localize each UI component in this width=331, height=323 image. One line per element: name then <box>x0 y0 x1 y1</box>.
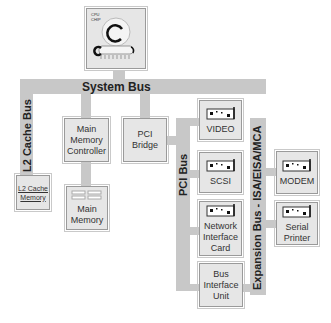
expansion-card-icon <box>206 203 236 217</box>
main-memory-label: Main Memory <box>71 204 104 226</box>
expansion-card-icon <box>282 158 312 172</box>
serial-printer-label: Serial Printer <box>284 222 311 244</box>
l2-cache-bus-label: L2 Cache Bus <box>21 99 33 172</box>
pci-bus <box>176 118 190 291</box>
pci-biu-link <box>176 284 200 291</box>
exp-biu-link <box>243 284 251 292</box>
bus-interface-unit-label: Bus Interface Unit <box>203 269 238 302</box>
pci-bridge-label: PCI Bridge <box>132 129 158 151</box>
memory-module-icon <box>71 190 103 200</box>
video-label: VIDEO <box>206 124 234 135</box>
mm-connector <box>81 162 91 187</box>
main-memory-controller-label: Main Memory Controller <box>67 124 106 157</box>
bus-interface-unit-box: Bus Interface Unit <box>199 263 243 307</box>
pci-top-link <box>176 118 200 126</box>
mmc-connector <box>81 94 91 119</box>
l2-cache-memory-box: L2 Cache Memory <box>16 175 50 210</box>
l2-cache-memory-label: L2 Cache Memory <box>18 184 48 202</box>
computer-bus-architecture-diagram: System Bus L2 Cache Bus PCI Bus Expansio… <box>0 0 331 323</box>
network-interface-card-box: Network Interface Card <box>199 201 242 256</box>
scsi-label: SCSI <box>210 176 231 187</box>
expansion-card-icon <box>282 204 312 218</box>
modem-card-box: MODEM <box>276 151 318 194</box>
system-bus-label: System Bus <box>82 80 151 94</box>
pci-bridge-connector <box>140 94 150 119</box>
cpu-label: CPU CHIP <box>91 12 101 22</box>
serial-printer-card-box: Serial Printer <box>276 202 318 245</box>
expansion-card-icon <box>206 106 236 120</box>
expansion-bus-label: Expansion Bus - ISA/EISA/MCA <box>251 126 263 290</box>
cpu-chip: CPU CHIP <box>86 8 146 69</box>
modem-label: MODEM <box>280 176 315 187</box>
main-memory-controller-box: Main Memory Controller <box>64 118 109 162</box>
network-interface-card-label: Network Interface Card <box>203 221 238 254</box>
scsi-card-box: SCSI <box>199 152 242 193</box>
pci-bridge-box: PCI Bridge <box>123 118 167 162</box>
expansion-card-icon <box>206 158 236 172</box>
video-card-box: VIDEO <box>199 100 242 140</box>
main-memory-box: Main Memory <box>66 186 108 230</box>
